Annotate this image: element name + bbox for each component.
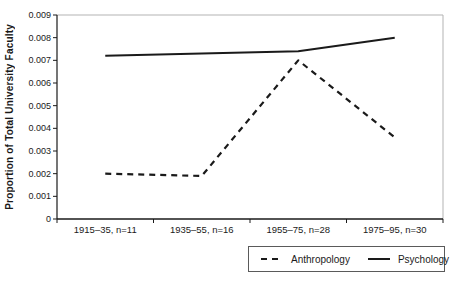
anthropology-series-line — [105, 60, 395, 176]
y-tick-label: 0 — [46, 214, 51, 224]
legend-item-psychology: Psychology — [368, 254, 449, 265]
x-category-label: 1975–95, n=30 — [363, 224, 427, 235]
y-tick-label: 0.006 — [28, 78, 51, 88]
x-category-label: 1915–35, n=11 — [74, 224, 137, 235]
x-category-label: 1935–55, n=16 — [170, 224, 234, 235]
faculty-proportion-line-chart: 00.0010.0020.0030.0040.0050.0060.0070.00… — [0, 0, 466, 285]
chart-legend: Anthropology Psychology — [248, 246, 445, 272]
y-tick-label: 0.001 — [28, 191, 51, 201]
legend-item-anthropology: Anthropology — [261, 254, 350, 265]
solid-line-key-icon — [368, 256, 390, 262]
x-category-label: 1955–75, n=28 — [266, 224, 330, 235]
y-tick-label: 0.007 — [28, 55, 51, 65]
dashed-line-key-icon — [261, 256, 283, 262]
y-tick-label: 0.008 — [28, 33, 51, 43]
psychology-series-line — [105, 38, 395, 56]
legend-label-psychology: Psychology — [398, 254, 449, 265]
chart-canvas: 00.0010.0020.0030.0040.0050.0060.0070.00… — [0, 0, 466, 285]
y-tick-label: 0.004 — [28, 123, 51, 133]
y-tick-label: 0.005 — [28, 101, 51, 111]
y-tick-label: 0.009 — [28, 10, 51, 20]
y-tick-label: 0.002 — [28, 169, 51, 179]
y-tick-label: 0.003 — [28, 146, 51, 156]
legend-label-anthropology: Anthropology — [291, 254, 350, 265]
